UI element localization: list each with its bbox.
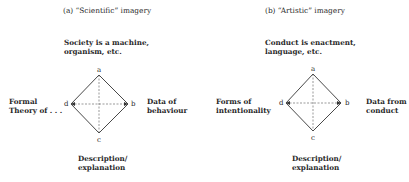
panel-a-right-line1: Data of	[147, 97, 176, 106]
panel-artistic-imagery: (b) “Artistic” imagery Conduct is enactm…	[205, 0, 409, 182]
panel-a-bottom-line2: explanation	[78, 163, 125, 172]
vertex-d-label: d	[64, 100, 68, 108]
panel-b-right-line2: conduct	[366, 106, 398, 115]
panel-a-left-line1: Formal	[9, 97, 37, 106]
vertex-c-label: c	[97, 136, 101, 144]
panel-a-left-line2: Theory of . . .	[9, 106, 62, 115]
panel-b-bottom-line2: explanation	[292, 163, 339, 172]
panel-a-bottom-line1: Description/	[78, 154, 127, 163]
vertex-a-label: a	[97, 66, 101, 74]
vertex-c-label: c	[311, 134, 315, 142]
panel-a-right-line2: behaviour	[147, 106, 187, 115]
panel-b-left-line2: intentionality	[216, 106, 271, 115]
panel-b-bottom-line1: Description/	[292, 154, 341, 163]
panel-b-left-line1: Forms of	[216, 97, 251, 106]
panel-scientific-imagery: (a) “Scientific” imagery Society is a ma…	[0, 0, 205, 182]
vertex-b-label: b	[131, 100, 135, 108]
panel-b-right-line1: Data from	[366, 97, 407, 106]
vertex-d-label: d	[279, 99, 283, 107]
vertex-a-label: a	[311, 65, 315, 73]
vertex-b-label: b	[345, 99, 349, 107]
